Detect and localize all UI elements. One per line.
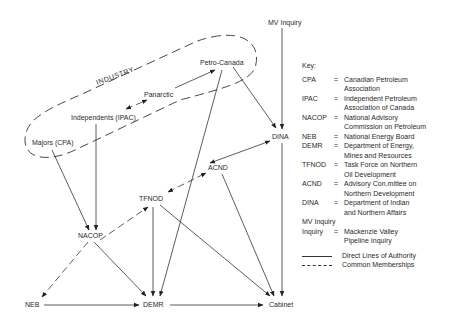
key-entry: Commission on Petroleum	[302, 122, 444, 132]
key-equals: =	[334, 227, 344, 237]
node-tfnod: TFNOD	[139, 195, 163, 202]
legend-common: Common Memberships	[302, 261, 444, 270]
solid-line-swatch	[302, 256, 332, 257]
key-entry: Association	[302, 84, 444, 94]
key-equals: =	[334, 132, 344, 142]
key-definition: Commission on Petroleum	[344, 122, 444, 132]
key-abbr: DINA	[302, 198, 334, 208]
edge-petro-canada-demr	[160, 70, 222, 296]
key-definition: National Advisory	[344, 113, 444, 123]
key-entries: CPA=Canadian PetroleumAssociationIPAC=In…	[302, 75, 444, 246]
key-definition: Pipeline Inquiry	[344, 236, 444, 246]
edge-nacop-demr	[94, 242, 146, 296]
key-equals: =	[334, 198, 344, 208]
key-entry: Inquiry=Mackenzie Valley	[302, 227, 444, 237]
key-entry: NACOP=National Advisory	[302, 113, 444, 123]
key-equals	[334, 170, 344, 180]
key-legend: Direct Lines of Authority Common Members…	[302, 252, 444, 270]
key-abbr: NACOP	[302, 113, 334, 123]
key-definition: National Energy Board	[344, 132, 444, 142]
edge-petro-canada-dina	[233, 67, 276, 128]
key-equals: =	[334, 94, 344, 104]
key-abbr: IPAC	[302, 94, 334, 104]
node-panarctic: Panarctic	[144, 91, 174, 98]
key-abbr	[302, 208, 334, 218]
key-definition: Independent Petroleum	[344, 94, 444, 104]
edge-panarctic-petro-canada	[175, 70, 215, 88]
key-entry: CPA=Canadian Petroleum	[302, 75, 444, 85]
key-equals: =	[334, 75, 344, 85]
edge-majors-nacop	[52, 150, 89, 230]
node-acnd: ACND	[208, 164, 228, 171]
key-entry: DEMR=Department of Energy,	[302, 141, 444, 151]
key-definition: Canadian Petroleum	[344, 75, 444, 85]
key-abbr: TFNOD	[302, 160, 334, 170]
edge-tfnod-cabinet	[160, 205, 270, 296]
key-abbr	[302, 236, 334, 246]
key-entry: NEB=National Energy Board	[302, 132, 444, 142]
edge-nacop-neb	[42, 242, 88, 297]
key-definition: Northern Development	[344, 189, 444, 199]
key-definition: Task Force on Northern	[344, 160, 444, 170]
key-equals	[334, 151, 344, 161]
key-definition: Mines and Resources	[344, 151, 444, 161]
edge-independents-panarctic	[126, 100, 147, 109]
legend-common-label: Common Memberships	[342, 260, 414, 270]
key-equals	[334, 208, 344, 218]
node-majors: Majors (CPA)	[32, 139, 73, 147]
key-equals	[334, 103, 344, 113]
key-definition: and Northern Affairs	[344, 208, 444, 218]
key-abbr: NEB	[302, 132, 334, 142]
key-equals: =	[334, 141, 344, 151]
key-entry: Association of Canada	[302, 103, 444, 113]
key-definition: Oil Development	[344, 170, 444, 180]
key-equals: =	[334, 113, 344, 123]
key-entry: Oil Development	[302, 170, 444, 180]
dashed-line-swatch	[302, 265, 332, 266]
key-abbr: MV Inquiry	[302, 217, 335, 227]
key-definition: Association of Canada	[344, 103, 444, 113]
key-definition: Department of Energy,	[344, 141, 444, 151]
node-cabinet: Cabinet	[269, 301, 293, 308]
key-title: Key:	[302, 61, 444, 71]
key-entry: Mines and Resources	[302, 151, 444, 161]
key-entry: TFNOD=Task Force on Northern	[302, 160, 444, 170]
key-equals	[334, 122, 344, 132]
key-entry: MV Inquiry	[302, 217, 444, 227]
key-abbr: CPA	[302, 75, 334, 85]
key-entry: Pipeline Inquiry	[302, 236, 444, 246]
edge-tfnod-acnd	[168, 173, 206, 192]
key-entry: and Northern Affairs	[302, 208, 444, 218]
key-entry: DINA=Department of Indian	[302, 198, 444, 208]
edge-acnd-dina	[210, 141, 270, 163]
key-equals	[334, 236, 344, 246]
key-abbr	[302, 122, 334, 132]
key-abbr: DEMR	[302, 141, 334, 151]
node-petro-canada: Petro-Canada	[200, 59, 244, 66]
node-demr: DEMR	[143, 301, 164, 308]
key-definition: Advisory Con.mittee on	[344, 179, 444, 189]
node-mv-inquiry: MV Inquiry	[268, 19, 302, 27]
key-entry: IPAC=Independent Petroleum	[302, 94, 444, 104]
key-abbr: Inquiry	[302, 227, 334, 237]
key-definition: Department of Indian	[344, 198, 444, 208]
key-entry: Northern Development	[302, 189, 444, 199]
key-equals: =	[334, 179, 344, 189]
key-abbr	[302, 103, 334, 113]
node-nacop: NACOP	[78, 232, 103, 239]
key-equals	[334, 84, 344, 94]
industry-label: INDUSTRY	[95, 66, 135, 86]
key-abbr	[302, 84, 334, 94]
legend-direct: Direct Lines of Authority	[302, 252, 444, 261]
key-definition: Association	[344, 84, 444, 94]
edge-nacop-tfnod	[100, 207, 148, 240]
node-dina: DINA	[272, 133, 289, 140]
key-entry: ACND=Advisory Con.mittee on	[302, 179, 444, 189]
key-equals	[334, 189, 344, 199]
key-abbr	[302, 189, 334, 199]
key-abbr	[302, 170, 334, 180]
node-neb: NEB	[25, 301, 40, 308]
key-abbr: ACND	[302, 179, 334, 189]
node-independents: Independents (IPAC)	[71, 114, 136, 122]
key-definition: Mackenzie Valley	[344, 227, 444, 237]
